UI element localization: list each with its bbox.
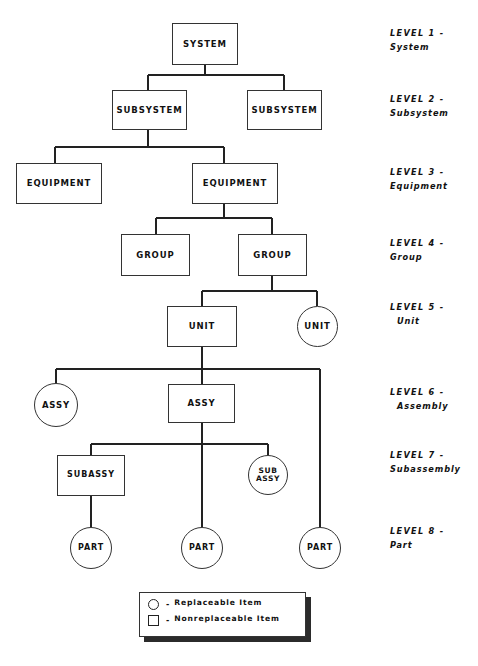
- indenture-level-diagram: SYSTEM SUBSYSTEM SUBSYSTEM EQUIPMENT EQU…: [0, 0, 478, 666]
- node-label: ASSY: [42, 401, 70, 410]
- node-part-1[interactable]: PART: [70, 527, 112, 569]
- level-name: Equipment: [390, 179, 448, 193]
- level-name: Subsystem: [390, 106, 449, 120]
- level-name: Group: [390, 250, 444, 264]
- node-label: PART: [189, 544, 215, 552]
- level-heading: LEVEL 6 -: [390, 387, 444, 397]
- level-name: System: [390, 40, 444, 54]
- level-caption-4: LEVEL 4 - Group: [390, 236, 444, 265]
- node-label: SYSTEM: [183, 40, 227, 49]
- node-label: UNIT: [304, 322, 331, 331]
- node-subassy-2[interactable]: SUB ASSY: [248, 455, 288, 495]
- node-label: ASSY: [187, 399, 215, 408]
- level-caption-8: LEVEL 8 - Part: [390, 524, 444, 553]
- node-group-1[interactable]: GROUP: [121, 234, 190, 276]
- level-caption-1: LEVEL 1 - System: [390, 26, 444, 55]
- node-group-2[interactable]: GROUP: [238, 234, 307, 276]
- node-part-3[interactable]: PART: [299, 527, 341, 569]
- node-unit-1[interactable]: UNIT: [167, 306, 237, 347]
- node-label: GROUP: [136, 251, 174, 260]
- node-label: PART: [307, 544, 333, 552]
- node-part-2[interactable]: PART: [181, 527, 223, 569]
- node-assy-1[interactable]: ASSY: [34, 383, 78, 427]
- node-assy-2[interactable]: ASSY: [168, 384, 235, 423]
- legend-label: Nonreplaceable Item: [174, 614, 279, 624]
- node-label: SUBSYSTEM: [116, 106, 182, 115]
- level-caption-6: LEVEL 6 - Assembly: [390, 385, 448, 414]
- node-label: PART: [78, 544, 104, 552]
- level-name: Unit: [390, 314, 444, 328]
- node-subsystem-1[interactable]: SUBSYSTEM: [112, 90, 187, 130]
- legend-dash: -: [166, 614, 169, 627]
- node-equipment-2[interactable]: EQUIPMENT: [192, 163, 278, 204]
- circle-symbol-icon: [148, 599, 159, 610]
- node-unit-2[interactable]: UNIT: [297, 306, 338, 347]
- level-name: Part: [390, 538, 444, 552]
- legend-item-replaceable: - Replaceable Item: [148, 598, 299, 611]
- level-caption-7: LEVEL 7 - Subassembly: [390, 448, 461, 477]
- legend-box: - Replaceable Item - Nonreplaceable Item: [139, 592, 306, 637]
- legend-label: Replaceable Item: [174, 598, 262, 608]
- node-subsystem-2[interactable]: SUBSYSTEM: [247, 90, 322, 130]
- level-caption-3: LEVEL 3 - Equipment: [390, 165, 448, 194]
- node-label: EQUIPMENT: [203, 179, 268, 188]
- level-heading: LEVEL 3 -: [390, 167, 444, 177]
- level-heading: LEVEL 5 -: [390, 302, 444, 312]
- level-heading: LEVEL 4 -: [390, 238, 444, 248]
- square-symbol-icon: [148, 615, 159, 626]
- node-system[interactable]: SYSTEM: [172, 23, 238, 65]
- level-heading: LEVEL 8 -: [390, 526, 444, 536]
- level-heading: LEVEL 2 -: [390, 94, 444, 104]
- level-name: Subassembly: [390, 462, 461, 476]
- node-label: SUB ASSY: [249, 467, 287, 483]
- level-caption-5: LEVEL 5 - Unit: [390, 300, 444, 329]
- node-label: SUBASSY: [67, 471, 115, 479]
- level-caption-2: LEVEL 2 - Subsystem: [390, 92, 449, 121]
- level-name: Assembly: [390, 399, 448, 413]
- node-label: GROUP: [253, 251, 291, 260]
- level-heading: LEVEL 7 -: [390, 450, 444, 460]
- legend: - Replaceable Item - Nonreplaceable Item: [139, 592, 306, 637]
- node-equipment-1[interactable]: EQUIPMENT: [16, 163, 102, 204]
- node-label: SUBSYSTEM: [251, 106, 317, 115]
- level-heading: LEVEL 1 -: [390, 28, 444, 38]
- legend-dash: -: [166, 598, 169, 611]
- node-subassy-1[interactable]: SUBASSY: [57, 455, 125, 496]
- node-label: EQUIPMENT: [27, 179, 92, 188]
- node-label: UNIT: [189, 322, 216, 331]
- legend-item-nonreplaceable: - Nonreplaceable Item: [148, 614, 299, 627]
